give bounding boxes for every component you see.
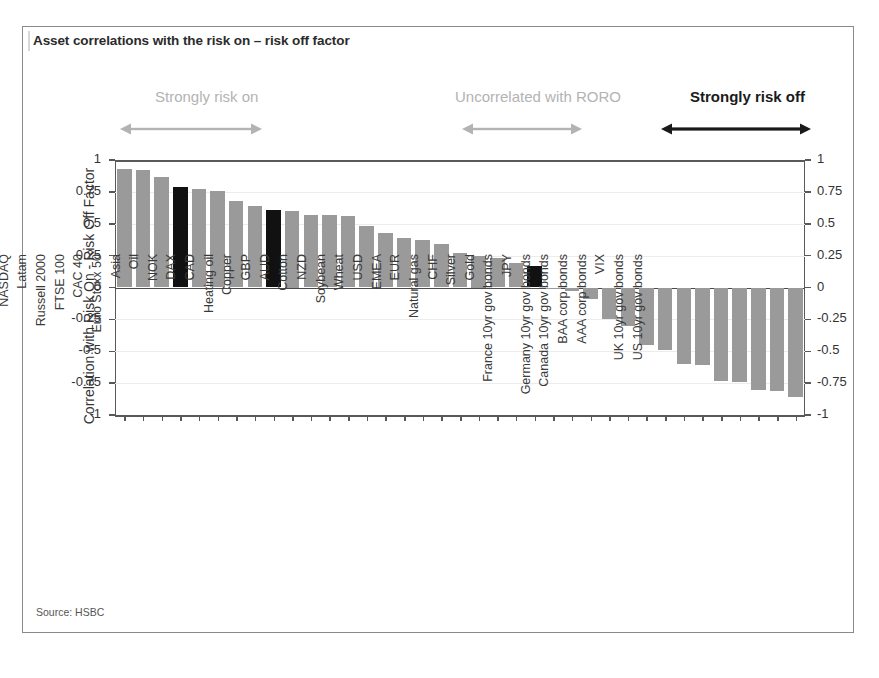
y-tick-label-right-0.5: 0.5	[817, 215, 865, 230]
x-category-label-gbp: GBP	[239, 254, 253, 424]
x-category-label-cotton: Cotton	[276, 254, 290, 424]
y-tick-mark-right	[805, 287, 811, 289]
x-category-label-soybean: Soybean	[314, 254, 328, 424]
x-category-label-france-10yr-gov-bonds: France 10yr gov bonds	[481, 254, 495, 424]
x-tick-mark	[646, 415, 648, 421]
x-category-label-nzd: NZD	[295, 254, 309, 424]
y-tick-label-right--0.25: -0.25	[817, 310, 865, 325]
bar-series	[115, 160, 805, 415]
bar-baa-corp-bonds	[714, 288, 729, 381]
x-tick-mark	[516, 415, 518, 421]
x-category-label-copper: Copper	[220, 254, 234, 424]
title-accent-rule	[28, 31, 30, 51]
page-title: Asset correlations with the risk on – ri…	[33, 33, 350, 48]
x-category-label-usd: USD	[351, 254, 365, 424]
x-category-label-asia: Asia	[109, 254, 123, 424]
chart-figure: Asset correlations with the risk on – ri…	[0, 0, 879, 678]
x-tick-mark	[348, 415, 350, 421]
x-tick-mark	[124, 415, 126, 421]
y-tick-label-left-1: 1	[53, 151, 101, 166]
x-category-label-nasdaq: NASDAQ	[0, 254, 11, 424]
bar-uk-10yr-gov-bonds	[770, 288, 785, 391]
x-tick-mark	[385, 415, 387, 421]
x-tick-mark	[143, 415, 145, 421]
x-category-label-dax: DAX	[164, 254, 178, 424]
x-tick-mark	[665, 415, 667, 421]
x-category-label-wheat: Wheat	[332, 254, 346, 424]
x-tick-mark	[423, 415, 425, 421]
x-tick-mark	[628, 415, 630, 421]
x-tick-mark	[684, 415, 686, 421]
x-category-label-ftse-100: FTSE 100	[53, 254, 67, 424]
x-category-label-aud: AUD	[258, 254, 272, 424]
x-tick-mark	[329, 415, 331, 421]
x-tick-mark	[740, 415, 742, 421]
bar-aaa-corp-bonds	[732, 288, 747, 382]
bar-us-10yr-gov-bonds	[788, 288, 803, 398]
y-tick-mark-right	[805, 414, 811, 416]
y-tick-mark-right	[805, 255, 811, 257]
y-tick-mark-left	[109, 191, 115, 193]
y-axis-title: Correlation with Risk On - Risk Off Fact…	[81, 167, 97, 423]
y-tick-label-right--1: -1	[817, 406, 865, 421]
x-tick-mark	[777, 415, 779, 421]
plot-area: 10.750.50.250-0.25-0.5-0.75-1 10.750.50.…	[115, 160, 805, 415]
source-note: Source: HSBC	[36, 606, 104, 618]
x-category-label-canada-10yr-gov-bonds: Canada 10yr gov bonds	[537, 254, 551, 424]
y-tick-mark-right	[805, 191, 811, 193]
y-tick-label-right-0.25: 0.25	[817, 247, 865, 262]
x-tick-mark	[702, 415, 704, 421]
annotation-arrow-strongly-risk-off	[661, 122, 811, 136]
x-tick-mark	[535, 415, 537, 421]
x-tick-mark	[180, 415, 182, 421]
x-tick-mark	[553, 415, 555, 421]
x-tick-mark	[441, 415, 443, 421]
x-category-label-uk-10yr-gov-bonds: UK 10yr gov bonds	[612, 254, 626, 424]
x-category-label-vix: VIX	[593, 254, 607, 424]
annotation-label-uncorrelated-with-roro: Uncorrelated with RORO	[455, 88, 621, 105]
bar-vix	[751, 288, 766, 390]
y-tick-mark-left	[109, 159, 115, 161]
bar-germany-10yr-gov-bonds	[677, 288, 692, 365]
annotation-label-strongly-risk-off: Strongly risk off	[690, 88, 805, 105]
annotation-arrow-uncorrelated-with-roro	[462, 122, 582, 136]
x-tick-mark	[591, 415, 593, 421]
x-category-label-eur: EUR	[388, 254, 402, 424]
x-tick-mark	[367, 415, 369, 421]
y-tick-label-right-1: 1	[817, 151, 865, 166]
x-category-label-silver: Silver	[444, 254, 458, 424]
x-tick-mark	[609, 415, 611, 421]
x-tick-mark	[497, 415, 499, 421]
x-tick-mark	[404, 415, 406, 421]
bar-canada-10yr-gov-bonds	[695, 288, 710, 366]
x-tick-mark	[162, 415, 164, 421]
annotation-label-strongly-risk-on: Strongly risk on	[155, 88, 258, 105]
x-tick-mark	[572, 415, 574, 421]
x-category-label-latam: Latam	[15, 254, 29, 424]
y-tick-mark-left	[109, 223, 115, 225]
x-category-label-nok: NOK	[146, 254, 160, 424]
y-tick-mark-right	[805, 351, 811, 353]
y-tick-label-right-0.75: 0.75	[817, 183, 865, 198]
x-tick-mark	[236, 415, 238, 421]
y-tick-mark-right	[805, 159, 811, 161]
y-tick-mark-right	[805, 223, 811, 225]
bar-jpy	[658, 288, 673, 350]
y-tick-label-right-0: 0	[817, 279, 865, 294]
x-tick-mark	[311, 415, 313, 421]
x-tick-mark	[721, 415, 723, 421]
x-category-label-jpy: JPY	[500, 254, 514, 424]
x-tick-mark	[199, 415, 201, 421]
x-category-label-baa-corp-bonds: BAA corp bonds	[556, 254, 570, 424]
x-tick-mark	[460, 415, 462, 421]
x-tick-mark	[292, 415, 294, 421]
x-category-label-oil: Oil	[127, 254, 141, 424]
y-tick-mark-right	[805, 319, 811, 321]
x-tick-mark	[758, 415, 760, 421]
x-tick-mark	[218, 415, 220, 421]
y-tick-label-right--0.75: -0.75	[817, 374, 865, 389]
x-category-label-chf: CHF	[426, 254, 440, 424]
x-category-label-natural-gas: Natural gas	[407, 254, 421, 424]
x-tick-mark	[796, 415, 798, 421]
x-category-label-russell-2000: Russell 2000	[34, 254, 48, 424]
